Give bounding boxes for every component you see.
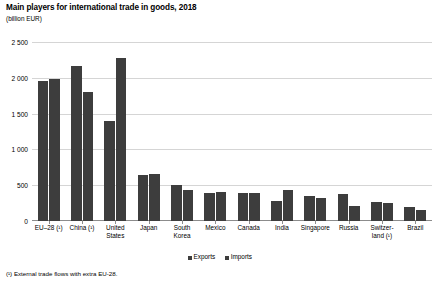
x-axis-label-line: Japan bbox=[132, 224, 165, 232]
bar-group bbox=[171, 42, 193, 221]
bar-group bbox=[304, 42, 326, 221]
y-axis-tick-label: 1 500 bbox=[11, 110, 28, 117]
legend-item[interactable]: Exports bbox=[188, 253, 215, 260]
x-axis-label: Japan bbox=[132, 224, 165, 232]
bar-group bbox=[371, 42, 393, 221]
bar-imports bbox=[249, 193, 260, 221]
x-axis-label: Mexico bbox=[199, 224, 232, 232]
bar-exports bbox=[138, 175, 149, 221]
bar-imports bbox=[116, 58, 127, 221]
x-axis-label: Singapore bbox=[299, 224, 332, 232]
x-axis-label-line: India bbox=[265, 224, 298, 232]
bar-exports bbox=[171, 185, 182, 221]
chart-footnote: (¹) External trade flows with extra EU-2… bbox=[6, 270, 117, 277]
bar-group bbox=[338, 42, 360, 221]
x-axis-label-line: Russia bbox=[332, 224, 365, 232]
bar-exports bbox=[38, 81, 49, 221]
bar-exports bbox=[371, 202, 382, 221]
bar-exports bbox=[338, 194, 349, 221]
x-axis-label-line: Canada bbox=[232, 224, 265, 232]
bar-group bbox=[404, 42, 426, 221]
x-axis-labels: EU–28 (¹)China (¹)UnitedStatesJapanSouth… bbox=[32, 224, 432, 250]
x-axis-label-line: Switzer- bbox=[365, 224, 398, 232]
x-axis-label: SouthKorea bbox=[165, 224, 198, 239]
bar-exports bbox=[271, 201, 282, 221]
bar-imports bbox=[283, 190, 294, 221]
x-axis-label-line: Brazil bbox=[399, 224, 432, 232]
x-axis-label: India bbox=[265, 224, 298, 232]
legend-label: Exports bbox=[194, 253, 216, 260]
x-axis-label: Russia bbox=[332, 224, 365, 232]
y-axis-tick-label: 2 000 bbox=[11, 74, 28, 81]
bar-group bbox=[204, 42, 226, 221]
x-axis-label: Switzer-land (¹) bbox=[365, 224, 398, 239]
bar-imports bbox=[83, 92, 94, 221]
x-axis-label: EU–28 (¹) bbox=[32, 224, 65, 232]
bar-imports bbox=[316, 198, 327, 221]
x-axis-label: Canada bbox=[232, 224, 265, 232]
plot-area bbox=[32, 42, 432, 221]
x-axis-label: China (¹) bbox=[65, 224, 98, 232]
bar-exports bbox=[404, 207, 415, 221]
y-axis-labels: 05001 0001 5002 0002 500 bbox=[0, 42, 28, 221]
x-axis-label-line: South bbox=[165, 224, 198, 232]
bar-group bbox=[271, 42, 293, 221]
bar-exports bbox=[104, 121, 115, 221]
bar-group bbox=[38, 42, 60, 221]
y-axis-tick-label: 1 000 bbox=[11, 146, 28, 153]
bar-exports bbox=[304, 196, 315, 221]
legend-swatch-icon bbox=[225, 256, 229, 260]
bar-group bbox=[138, 42, 160, 221]
x-axis-label-line: States bbox=[99, 232, 132, 240]
bar-imports bbox=[49, 79, 60, 221]
bar-exports bbox=[238, 193, 249, 221]
bar-imports bbox=[149, 174, 160, 221]
bar-exports bbox=[204, 193, 215, 221]
x-axis-label-line: China (¹) bbox=[65, 224, 98, 232]
x-axis-label-line: Singapore bbox=[299, 224, 332, 232]
x-axis-label-line: EU–28 (¹) bbox=[32, 224, 65, 232]
legend-label: Imports bbox=[231, 253, 252, 260]
legend-swatch-icon bbox=[188, 256, 192, 260]
bar-imports bbox=[383, 203, 394, 221]
bar-imports bbox=[349, 206, 360, 221]
y-axis-tick-label: 0 bbox=[24, 218, 28, 225]
bar-imports bbox=[183, 190, 194, 222]
bar-group bbox=[238, 42, 260, 221]
chart-title: Main players for international trade in … bbox=[6, 3, 197, 12]
bar-group bbox=[71, 42, 93, 221]
chart-container: Main players for international trade in … bbox=[0, 0, 440, 283]
y-axis-tick-label: 500 bbox=[17, 182, 28, 189]
x-axis-label: UnitedStates bbox=[99, 224, 132, 239]
x-axis-label: Brazil bbox=[399, 224, 432, 232]
bar-imports bbox=[216, 192, 227, 221]
chart-subtitle: (billion EUR) bbox=[6, 15, 42, 22]
x-axis-label-line: Mexico bbox=[199, 224, 232, 232]
y-axis-tick-label: 2 500 bbox=[11, 39, 28, 46]
legend-item[interactable]: Imports bbox=[225, 253, 252, 260]
bar-exports bbox=[71, 66, 82, 221]
chart-legend: ExportsImports bbox=[0, 253, 440, 260]
bar-imports bbox=[416, 210, 427, 221]
x-axis-label-line: land (¹) bbox=[365, 232, 398, 240]
bar-group bbox=[104, 42, 126, 221]
x-axis-label-line: United bbox=[99, 224, 132, 232]
x-axis-label-line: Korea bbox=[165, 232, 198, 240]
